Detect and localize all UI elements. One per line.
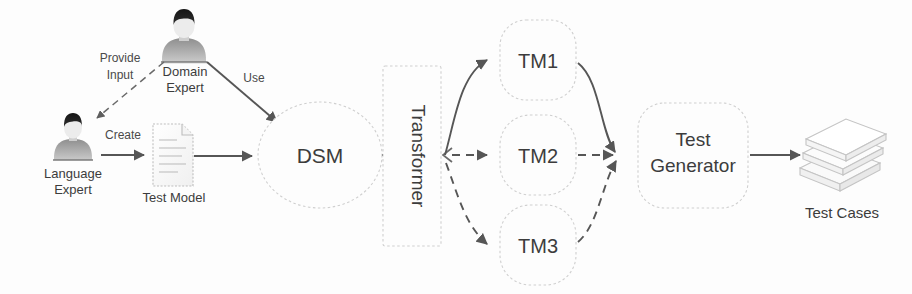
dsm-label: DSM	[297, 144, 344, 167]
transformer-branch-arrowhead	[443, 148, 452, 162]
transformer-label: Transformer	[408, 105, 429, 208]
language-expert-label-line1: Language	[44, 166, 102, 181]
tm3-to-generator-arrow	[578, 161, 616, 242]
domain-expert-label-line2: Expert	[166, 80, 204, 95]
diagram-canvas: Domain Expert Language Expert Provide In…	[0, 0, 912, 294]
domain-expert-label-line1: Domain	[163, 64, 208, 79]
tm1-to-generator-arrow	[578, 63, 615, 152]
use-label: Use	[243, 71, 265, 85]
document-stack-icon	[800, 119, 886, 191]
transformer-to-tm3-arrow	[446, 163, 487, 244]
provide-input-label-line2: Input	[107, 68, 134, 82]
test-generator-label-line2: Generator	[650, 155, 736, 176]
person-avatar-icon	[161, 9, 207, 63]
workflow-diagram: Domain Expert Language Expert Provide In…	[0, 0, 912, 294]
test-model-label: Test Model	[143, 190, 206, 205]
transformer-to-tm1-arrow	[445, 60, 487, 155]
document-icon	[153, 124, 193, 186]
tm2-label: TM2	[518, 145, 558, 167]
provide-input-label-line1: Provide	[100, 51, 141, 65]
use-arrow	[207, 62, 277, 122]
test-generator-label-line1: Test	[676, 129, 712, 150]
person-avatar-icon	[53, 113, 93, 161]
tm1-label: TM1	[518, 50, 558, 72]
tm3-label: TM3	[518, 235, 558, 257]
test-cases-label: Test Cases	[805, 204, 879, 221]
language-expert-label-line2: Expert	[54, 182, 92, 197]
create-label: Create	[105, 128, 141, 142]
